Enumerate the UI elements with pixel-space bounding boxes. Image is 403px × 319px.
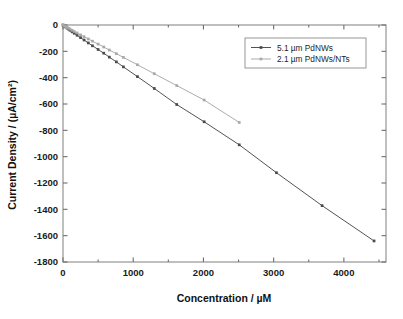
legend-label: 5.1 µm PdNWs bbox=[277, 43, 333, 53]
data-point bbox=[97, 48, 100, 51]
data-point bbox=[91, 44, 94, 47]
data-point bbox=[87, 42, 90, 45]
x-tick-label: 4000 bbox=[333, 267, 354, 278]
y-axis-title: Current Density / (µA/cm²) bbox=[6, 80, 18, 210]
data-point bbox=[108, 56, 111, 59]
data-point bbox=[203, 99, 206, 102]
x-tick-label: 3000 bbox=[263, 267, 284, 278]
data-point bbox=[136, 63, 139, 66]
x-tick-label: 1000 bbox=[123, 267, 144, 278]
y-tick-label: -1400 bbox=[34, 204, 58, 215]
x-tick-label: 0 bbox=[60, 267, 65, 278]
y-tick-label: -800 bbox=[39, 125, 58, 136]
chart-legend: 5.1 µm PdNWs2.1 µm PdNWs/NTs bbox=[245, 38, 366, 68]
data-point bbox=[115, 61, 118, 64]
legend-marker-swatch bbox=[260, 58, 263, 61]
data-point bbox=[238, 121, 241, 124]
y-tick-label: -1000 bbox=[34, 151, 58, 162]
data-point bbox=[76, 34, 79, 37]
data-point bbox=[87, 38, 90, 41]
data-point bbox=[97, 43, 100, 46]
data-point bbox=[73, 30, 76, 33]
data-point bbox=[79, 34, 82, 37]
data-point bbox=[115, 52, 118, 55]
data-point bbox=[175, 84, 178, 87]
data-point bbox=[122, 56, 125, 59]
data-point bbox=[153, 72, 156, 75]
data-point bbox=[108, 49, 111, 52]
data-point bbox=[79, 36, 82, 39]
data-point bbox=[203, 120, 206, 123]
y-tick-label: -1800 bbox=[34, 256, 58, 267]
y-tick-label: -200 bbox=[39, 46, 58, 57]
legend-label: 2.1 µm PdNWs/NTs bbox=[277, 54, 350, 64]
scatter-chart: 01000200030004000 0-200-400-600-800-1000… bbox=[0, 0, 403, 319]
y-tick-label: -1200 bbox=[34, 177, 58, 188]
data-point bbox=[91, 40, 94, 43]
data-point bbox=[238, 143, 241, 146]
y-tick-label: -600 bbox=[39, 98, 58, 109]
data-point bbox=[102, 46, 105, 49]
data-point bbox=[136, 75, 139, 78]
y-tick-label: 0 bbox=[53, 19, 58, 30]
legend-marker-swatch bbox=[260, 46, 263, 49]
y-tick-label: -400 bbox=[39, 72, 58, 83]
data-point bbox=[373, 240, 376, 243]
data-point bbox=[83, 35, 86, 38]
data-point bbox=[275, 171, 278, 174]
data-point bbox=[175, 103, 178, 106]
data-point bbox=[76, 32, 79, 35]
data-point bbox=[83, 39, 86, 42]
data-point bbox=[102, 52, 105, 55]
y-tick-label: -1600 bbox=[34, 230, 58, 241]
x-tick-label: 2000 bbox=[193, 267, 214, 278]
data-point bbox=[153, 87, 156, 90]
data-point bbox=[122, 66, 125, 69]
chart-figure: 01000200030004000 0-200-400-600-800-1000… bbox=[0, 0, 403, 319]
data-point bbox=[321, 204, 324, 207]
x-axis-title: Concentration / µM bbox=[177, 292, 272, 304]
